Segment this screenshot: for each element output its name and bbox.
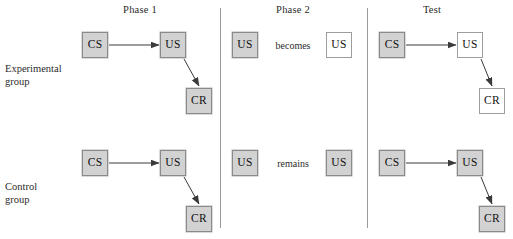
conditioning-diagram: Phase 1 Phase 2 Test Experimental group … — [0, 0, 513, 239]
relation-label-exp-phase2: becomes — [262, 40, 324, 51]
node-ctl-phase2-us-before: US — [232, 150, 258, 176]
node-exp-phase1-us: US — [160, 32, 186, 58]
node-ctl-phase1-us: US — [160, 150, 186, 176]
node-exp-test-cs: CS — [379, 32, 405, 58]
column-header-phase2: Phase 2 — [258, 4, 328, 15]
group-label-experimental: Experimental group — [5, 62, 62, 88]
node-ctl-test-cr: CR — [479, 206, 505, 232]
group-label-control-line2: group — [5, 193, 37, 206]
node-exp-phase1-cr: CR — [186, 88, 212, 114]
divider-phase1-phase2 — [220, 8, 221, 228]
node-ctl-test-cs: CS — [379, 150, 405, 176]
arrow-ctl-phase1-us-to-cr — [184, 177, 199, 204]
node-ctl-phase1-cr: CR — [186, 206, 212, 232]
divider-phase2-test — [367, 8, 368, 228]
node-exp-test-us: US — [457, 32, 483, 58]
node-ctl-phase1-cs: CS — [82, 150, 108, 176]
group-label-experimental-line1: Experimental — [5, 62, 62, 75]
node-exp-phase2-us-before: US — [232, 32, 258, 58]
node-exp-phase1-cs: CS — [82, 32, 108, 58]
column-header-test: Test — [397, 4, 467, 15]
relation-label-ctl-phase2: remains — [262, 158, 324, 169]
arrow-exp-test-us-to-cr — [481, 59, 492, 86]
arrow-exp-phase1-us-to-cr — [184, 59, 199, 86]
node-exp-phase2-us-after: US — [326, 32, 352, 58]
group-label-control-line1: Control — [5, 180, 37, 193]
node-ctl-phase2-us-after: US — [326, 150, 352, 176]
column-header-phase1: Phase 1 — [105, 4, 175, 15]
node-ctl-test-us: US — [457, 150, 483, 176]
arrow-ctl-test-us-to-cr — [481, 177, 492, 204]
node-exp-test-cr: CR — [479, 88, 505, 114]
group-label-experimental-line2: group — [5, 75, 62, 88]
group-label-control: Control group — [5, 180, 37, 206]
